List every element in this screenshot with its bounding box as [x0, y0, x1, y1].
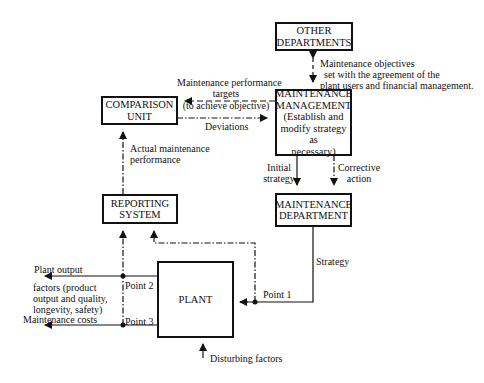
comparison-unit-box: COMPARISON UNIT [101, 96, 178, 125]
maintenance-department-box: MAINTENANCE DEPARTMENT [275, 193, 352, 227]
point1-label: Point 1 [263, 289, 292, 300]
plant-box: PLANT [157, 261, 234, 338]
comparison-line2: UNIT [127, 111, 152, 123]
reporting-system-box: REPORTING SYSTEM [102, 194, 178, 224]
mm-line4: modify strategy as [277, 123, 350, 146]
other-departments-line1: OTHER [297, 25, 332, 37]
objectives-label: Maintenance objectives set with the agre… [320, 58, 474, 91]
md-line2: DEPARTMENT [279, 210, 348, 222]
point2-dot [121, 274, 126, 279]
mm-line2: MANAGEMENT [276, 100, 352, 112]
reporting-line2: SYSTEM [119, 209, 160, 221]
corrective-action-label: Corrective action [337, 162, 381, 184]
strategy-label: Strategy [316, 256, 349, 267]
targets-label: Maintenance performance targets (to achi… [177, 77, 275, 111]
point2-label: Point 2 [125, 280, 154, 291]
plant-output-label: Plant output [34, 264, 83, 275]
point1-dot [253, 300, 258, 305]
mm-line3: (Establish and [284, 111, 344, 123]
mm-line5: necessary) [291, 146, 335, 158]
plant-label: PLANT [179, 294, 213, 306]
reporting-line1: REPORTING [111, 198, 169, 210]
maintenance-management-box: MAINTENANCE MANAGEMENT (Establish and mo… [275, 89, 352, 156]
initial-strategy-label: Initial strategy [262, 162, 296, 184]
maintenance-costs-label: Maintenance costs [23, 314, 97, 325]
plant-output-factors-label: factors (product output and quality, lon… [33, 282, 108, 315]
disturbing-factors-label: Disturbing factors [210, 353, 283, 364]
point3-label: Point 3 [125, 316, 154, 327]
deviations-label: Deviations [205, 121, 248, 132]
other-departments-box: OTHER DEPARTMENTS [275, 22, 353, 51]
comparison-line1: COMPARISON [106, 99, 174, 111]
other-departments-line2: DEPARTMENTS [277, 37, 352, 49]
md-line1: MAINTENANCE [275, 199, 352, 211]
actual-performance-label: Actual maintenance performance [130, 143, 210, 165]
